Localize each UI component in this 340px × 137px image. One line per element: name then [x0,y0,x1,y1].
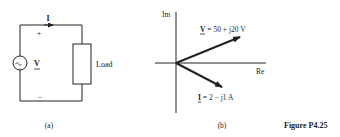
current-label: I [46,14,49,23]
sublabel-b: (b) [218,121,227,130]
i-phasor-label: I = 2 − j1 A [198,93,234,102]
im-axis-label: Im [162,10,170,19]
load-box [73,44,91,84]
v-phasor-arrow-icon [176,37,240,63]
voltage-label: V [34,59,40,68]
ac-voltage-source-icon: + − [13,56,27,71]
figure-caption: Figure P4.25 [284,121,327,130]
phasor-diagram: Im Re V = 50 + j20 V I = 2 − j1 A (b) [155,10,266,130]
circuit-diagram: + − I + V − Load (a) [13,14,112,130]
v-phasor-label: V = 50 + j20 V [200,25,246,34]
sublabel-a: (a) [45,121,54,130]
figure-canvas: + − I + V − Load (a) Im Re V = 50 + j20 … [0,0,340,137]
i-phasor-arrow-icon [176,63,222,87]
plus-sign: + [37,29,42,38]
re-axis-label: Re [256,67,265,76]
minus-sign: − [38,93,43,102]
load-label: Load [96,60,112,69]
